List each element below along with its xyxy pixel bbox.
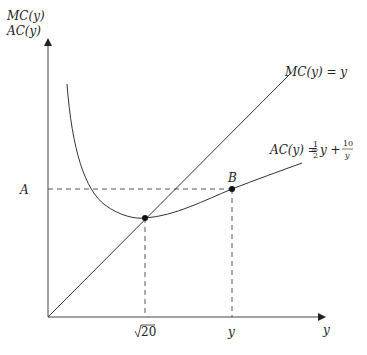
ac-label: AC(y) = 1 2 y + 10 y	[269, 139, 353, 160]
svg-text:20: 20	[141, 325, 156, 339]
tick-y-label: y	[227, 325, 235, 339]
svg-text:AC(y) =: AC(y) =	[269, 143, 318, 157]
point-b	[229, 186, 235, 192]
svg-text:1: 1	[313, 140, 318, 149]
svg-text:10: 10	[343, 139, 353, 148]
point-a-label: A	[19, 183, 29, 197]
ac-curve	[67, 84, 302, 218]
y-axis-label-mc: MC(y)	[6, 9, 45, 23]
tick-sqrt20-label: 20	[135, 325, 156, 339]
svg-text:2: 2	[313, 151, 318, 160]
mc-label: MC(y) = y	[284, 65, 347, 79]
svg-text:y: y	[344, 151, 350, 160]
cost-curves-diagram: MC(y) AC(y) y MC(y) = y AC(y) = 1 2 y + …	[0, 0, 367, 355]
min-point	[142, 215, 148, 221]
x-axis-label: y	[322, 323, 330, 337]
point-b-label: B	[227, 171, 237, 185]
mc-curve	[48, 73, 291, 317]
y-axis-label-ac: AC(y)	[6, 24, 41, 38]
svg-text:y +: y +	[319, 143, 341, 157]
